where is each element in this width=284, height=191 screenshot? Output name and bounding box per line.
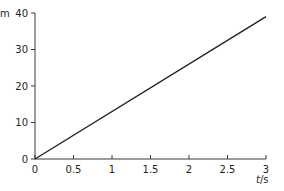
y-ticks: 010203040 (15, 8, 35, 165)
x-tick-label: 2.5 (220, 164, 236, 175)
x-tick-label: 2 (186, 164, 192, 175)
y-tick-label: 40 (15, 8, 28, 19)
x-tick-label: 0 (32, 164, 38, 175)
x-tick-label: 1.5 (143, 164, 159, 175)
y-tick-label: 30 (15, 44, 28, 55)
x-axis-label: t/s (256, 174, 269, 185)
data-line (35, 17, 266, 159)
y-tick-label: 20 (15, 81, 28, 92)
chart-canvas: 010203040 00.511.522.53 m t/s (0, 0, 284, 191)
x-ticks: 00.511.522.53 (32, 155, 269, 175)
y-axis-label: m (0, 8, 10, 19)
y-tick-label: 10 (15, 117, 28, 128)
x-tick-label: 0.5 (66, 164, 82, 175)
x-tick-label: 1 (109, 164, 115, 175)
y-tick-label: 0 (22, 154, 28, 165)
